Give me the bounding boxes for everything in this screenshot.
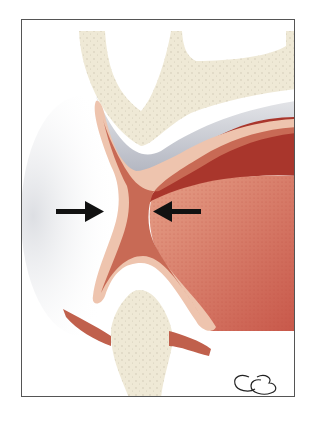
anatomy-illustration: [22, 20, 295, 397]
artist-signature-cb: [235, 375, 276, 394]
tissue-texture: [150, 175, 295, 331]
figure-frame: [21, 19, 295, 397]
lower-right-muscle: [169, 331, 211, 356]
lower-bone-texture: [111, 290, 173, 397]
